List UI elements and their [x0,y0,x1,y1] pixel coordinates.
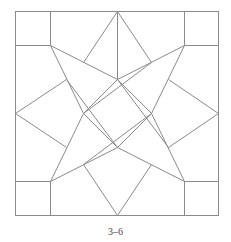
pattern-line [169,80,219,114]
pattern-line [84,165,118,216]
pattern-lines [16,12,219,216]
pattern-line [84,12,118,63]
pattern-line [118,165,152,216]
pattern-line [118,80,169,148]
pattern-line [16,80,67,114]
pattern-line [152,46,185,114]
pattern-line [16,114,67,148]
pattern-line [67,80,118,148]
pattern-line [118,12,152,63]
pattern-line [118,148,185,182]
quilt-block-diagram [0,0,231,242]
pattern-line [169,114,219,148]
pattern-line [84,114,152,165]
pattern-line [51,46,118,80]
pattern-line [51,114,84,182]
figure-caption: 3–6 [0,227,231,237]
